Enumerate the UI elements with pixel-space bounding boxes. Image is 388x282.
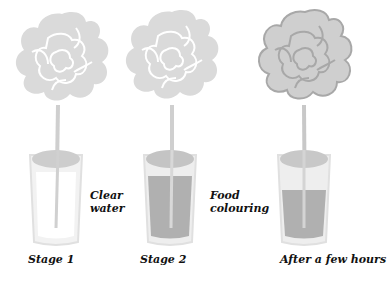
stage-3-illustration xyxy=(259,10,351,245)
side-label-line2: water xyxy=(90,202,124,215)
side-label-line1: Clear xyxy=(90,189,124,202)
diagram-canvas xyxy=(0,0,388,282)
side-label-clear: Clear water xyxy=(90,189,124,215)
glass-rim xyxy=(32,150,80,168)
side-label-line2: colouring xyxy=(210,202,269,215)
stage-2-illustration xyxy=(126,10,218,245)
side-label-line1: Food xyxy=(210,189,269,202)
glass-rim xyxy=(146,150,194,168)
side-label-food: Food colouring xyxy=(210,189,269,215)
flower-white xyxy=(126,10,218,99)
flower-white xyxy=(16,12,108,101)
flower-coloured xyxy=(259,10,351,99)
stage-1-label: Stage 1 xyxy=(28,253,74,266)
stage-3-label: After a few hours xyxy=(280,253,386,266)
stage-2-label: Stage 2 xyxy=(140,253,186,266)
